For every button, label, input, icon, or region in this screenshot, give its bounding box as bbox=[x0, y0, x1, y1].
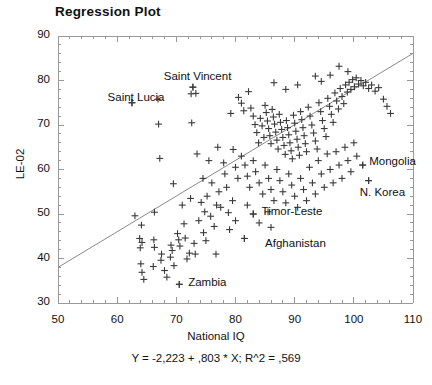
x-axis-title: National IQ bbox=[0, 330, 432, 342]
x-tick-label: 100 bbox=[334, 313, 374, 325]
chart-title: Regression Plot bbox=[55, 4, 161, 19]
regression-line bbox=[58, 53, 413, 267]
x-tick-label: 50 bbox=[38, 313, 78, 325]
point-label: Afghanistan bbox=[265, 237, 326, 249]
point-label: Saint Vincent bbox=[0, 70, 231, 82]
x-tick-label: 70 bbox=[156, 313, 196, 325]
x-tick-label: 60 bbox=[97, 313, 137, 325]
data-points bbox=[129, 63, 394, 288]
regression-plot-figure: Regression Plot 90807060504030 506070809… bbox=[0, 0, 432, 385]
y-tick-label: 70 bbox=[20, 117, 50, 129]
x-tick-label: 90 bbox=[275, 313, 315, 325]
point-label: Saint Lucia bbox=[0, 91, 165, 103]
y-tick-label: 50 bbox=[20, 206, 50, 218]
y-tick-label: 40 bbox=[20, 251, 50, 263]
y-tick-label: 90 bbox=[20, 28, 50, 40]
y-tick-label: 30 bbox=[20, 295, 50, 307]
x-tick-label: 110 bbox=[393, 313, 432, 325]
point-label: Timor-Leste bbox=[262, 205, 323, 217]
point-label: Zambia bbox=[188, 276, 226, 288]
x-tick-label: 80 bbox=[216, 313, 256, 325]
point-label: N. Korea bbox=[360, 186, 405, 198]
regression-equation: Y = -2,223 + ,803 * X; R^2 = ,569 bbox=[0, 352, 432, 364]
y-axis-title: LE-02 bbox=[14, 134, 26, 194]
point-label: Mongolia bbox=[369, 155, 416, 167]
